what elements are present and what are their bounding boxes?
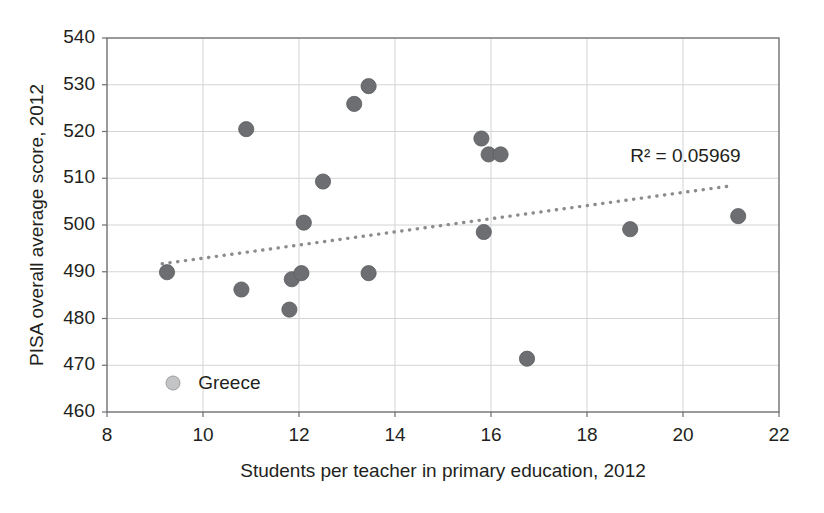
chart-legend: Greece	[162, 372, 260, 394]
legend-marker-icon	[162, 372, 184, 394]
data-point	[159, 265, 174, 280]
y-tick-label: 490	[35, 260, 95, 282]
y-tick-label: 520	[35, 120, 95, 142]
y-tick-label: 530	[35, 73, 95, 95]
gridlines	[107, 38, 779, 412]
data-point	[493, 147, 508, 162]
axis-tick-marks	[102, 38, 779, 417]
data-point	[239, 122, 254, 137]
data-point	[234, 282, 249, 297]
data-point	[731, 209, 746, 224]
data-point	[347, 96, 362, 111]
x-axis-title: Students per teacher in primary educatio…	[240, 460, 646, 482]
scatter-chart-figure: PISA overall average score, 2012 Student…	[0, 0, 824, 513]
data-point	[294, 266, 309, 281]
data-point	[623, 222, 638, 237]
data-point	[361, 79, 376, 94]
data-point	[296, 215, 311, 230]
x-tick-label: 22	[749, 424, 809, 446]
y-tick-label: 480	[35, 307, 95, 329]
y-tick-label: 540	[35, 26, 95, 48]
data-point	[361, 266, 376, 281]
legend-label-greece: Greece	[198, 372, 260, 394]
x-tick-label: 8	[77, 424, 137, 446]
x-tick-label: 20	[653, 424, 713, 446]
x-tick-label: 12	[269, 424, 329, 446]
data-point	[315, 174, 330, 189]
x-tick-label: 16	[461, 424, 521, 446]
x-tick-label: 18	[557, 424, 617, 446]
r-squared-annotation: R² = 0.05969	[630, 145, 740, 167]
x-tick-label: 10	[173, 424, 233, 446]
data-point	[474, 131, 489, 146]
y-tick-label: 500	[35, 213, 95, 235]
data-point	[519, 351, 534, 366]
data-point	[282, 302, 297, 317]
y-tick-label: 510	[35, 166, 95, 188]
y-tick-label: 460	[35, 400, 95, 422]
data-point	[476, 224, 491, 239]
x-tick-label: 14	[365, 424, 425, 446]
data-points	[159, 79, 745, 367]
y-tick-label: 470	[35, 353, 95, 375]
